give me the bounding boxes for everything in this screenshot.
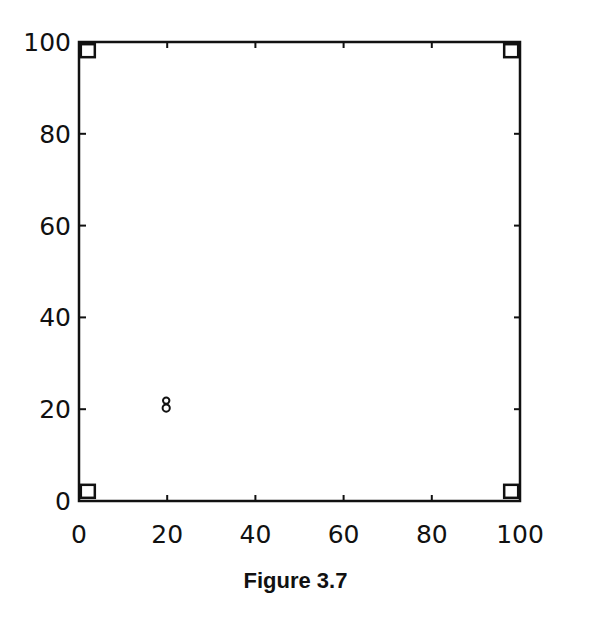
x-tick-label: 40 — [239, 520, 271, 549]
y-tick-label: 60 — [39, 212, 71, 241]
square-marker — [81, 485, 95, 498]
scatter-chart: 020406080100020406080100 — [0, 0, 591, 560]
y-tick-label: 20 — [39, 395, 71, 424]
square-marker — [504, 485, 518, 498]
figure-eight-marker-bottom — [163, 405, 170, 412]
x-tick-label: 60 — [328, 520, 360, 549]
plot-area: 020406080100020406080100 — [23, 28, 544, 549]
y-tick-label: 40 — [39, 303, 71, 332]
y-tick-label: 100 — [23, 28, 71, 57]
x-tick-label: 0 — [71, 520, 87, 549]
x-tick-label: 80 — [416, 520, 448, 549]
y-tick-label: 80 — [39, 120, 71, 149]
x-tick-label: 20 — [151, 520, 183, 549]
x-tick-label: 100 — [496, 520, 544, 549]
plot-frame — [79, 42, 520, 501]
figure-eight-marker-top — [163, 397, 169, 403]
y-tick-label: 0 — [55, 487, 71, 516]
figure-caption: Figure 3.7 — [0, 568, 591, 594]
square-marker — [504, 44, 518, 57]
square-marker — [81, 44, 95, 57]
